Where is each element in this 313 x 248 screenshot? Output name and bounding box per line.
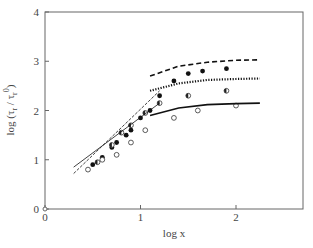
y-tick-label: 4 (34, 6, 40, 18)
fit-line (150, 103, 260, 115)
x-tick-label: 2 (233, 211, 239, 223)
data-point (129, 140, 134, 145)
data-point (114, 152, 119, 157)
fit-line (150, 78, 260, 90)
fit-line (150, 60, 260, 76)
axes (45, 12, 303, 209)
x-tick-label: 0 (42, 211, 48, 223)
data-point (172, 79, 177, 84)
chart: 01201234 log x log (τr / τr0) (0, 0, 313, 248)
data-point (224, 66, 229, 71)
data-point (200, 69, 205, 74)
data-point (124, 133, 129, 138)
y-tick-label: 1 (34, 154, 40, 166)
data-point (129, 128, 134, 133)
data-point (100, 157, 105, 162)
data-point (157, 93, 162, 98)
data-point (172, 115, 177, 120)
y-tick-label: 0 (34, 203, 40, 215)
y-tick-label: 2 (34, 105, 40, 117)
data-point (86, 167, 91, 172)
x-tick-label: 1 (138, 211, 144, 223)
x-axis-label: log x (163, 227, 186, 239)
data-point (195, 108, 200, 113)
ticks: 01201234 (34, 6, 239, 223)
data-point (143, 128, 148, 133)
y-axis-label: log (τr / τr0) (2, 84, 19, 135)
data-point (90, 162, 95, 167)
data-point (186, 71, 191, 76)
plot-area (74, 60, 260, 174)
data-point (114, 140, 119, 145)
y-tick-label: 3 (34, 55, 40, 67)
